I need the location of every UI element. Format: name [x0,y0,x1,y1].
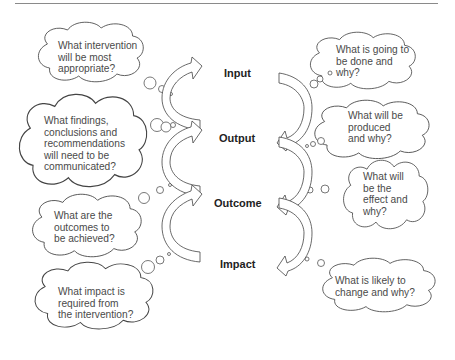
left-cloud-1-text: What intervention will be most appropria… [58,40,137,75]
stage-label-output: Output [219,132,255,144]
right-cloud-2-text: What will be produced and why? [348,110,403,145]
left-arrow-outcome [162,185,202,262]
left-arrow-output [162,121,202,196]
left-cloud-3-text: What are the outcomes to be achieved? [54,210,115,245]
stage-label-outcome: Outcome [214,197,262,209]
stage-label-impact: Impact [220,258,255,270]
left-cloud-4-text: What impact is required from the interve… [58,286,133,321]
right-cloud-1-text: What is going to be done and why? [336,44,409,79]
stage-label-input: Input [224,67,251,79]
right-cloud-4-text: What is likely to change and why? [335,275,415,298]
left-arrow-input [162,57,202,130]
right-cloud-3-text: What will be the effect and why? [363,171,408,217]
left-cloud-2-text: What findings, conclusions and recommend… [44,115,125,173]
logic-model-diagram: Input Output Outcome Impact What interve… [0,0,455,360]
